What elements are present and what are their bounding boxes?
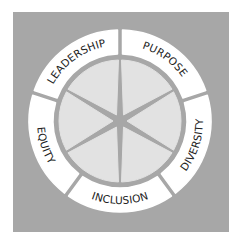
wheel-diagram: PURPOSE DIVERSITY INCLUSION EQUITY LEADE… (0, 0, 239, 246)
